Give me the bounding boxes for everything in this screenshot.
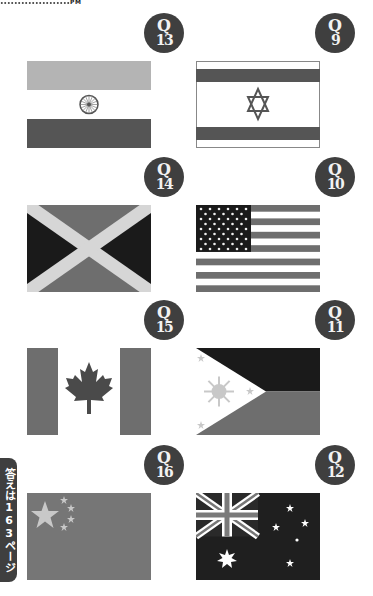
flag-israel — [196, 61, 320, 148]
dotted-rule — [0, 2, 70, 4]
header-marker: PM — [70, 0, 81, 5]
flag-canada — [27, 348, 151, 435]
question-badge-10: Q 10 — [315, 157, 355, 197]
flag-australia — [196, 493, 320, 580]
question-badge-11: Q 11 — [315, 300, 355, 340]
flag-philippines — [196, 348, 320, 435]
q-number: 16 — [156, 465, 172, 479]
answer-page-tab: 答えは163ページ — [0, 458, 17, 582]
q-number: 13 — [156, 33, 172, 47]
question-badge-14: Q 14 — [144, 157, 184, 197]
question-badge-13: Q 13 — [144, 13, 184, 53]
q-number: 14 — [156, 177, 172, 191]
q-number: 11 — [327, 320, 343, 334]
flag-india — [27, 61, 151, 148]
question-badge-16: Q 16 — [144, 445, 184, 485]
question-badge-12: Q 12 — [315, 445, 355, 485]
q-number: 10 — [327, 177, 343, 191]
flag-usa — [196, 205, 320, 292]
flag-jamaica — [27, 205, 151, 292]
q-number: 12 — [327, 465, 343, 479]
flag-china — [27, 493, 151, 580]
q-number: 9 — [331, 33, 339, 47]
question-badge-9: Q 9 — [315, 13, 355, 53]
question-badge-15: Q 15 — [144, 300, 184, 340]
q-number: 15 — [156, 320, 172, 334]
